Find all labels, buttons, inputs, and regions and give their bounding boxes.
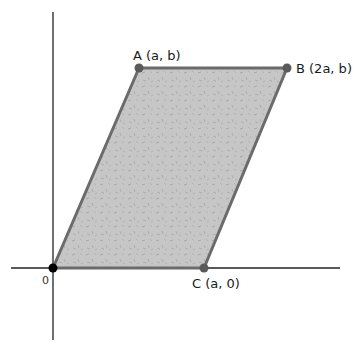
parallelogram-diagram: A (a, b) B (2a, b) C (a, 0) 0	[0, 0, 360, 351]
vertex-b-point	[283, 64, 292, 73]
vertex-c-label: C (a, 0)	[192, 276, 240, 291]
vertex-c-point	[200, 264, 209, 273]
origin-label: 0	[42, 274, 49, 287]
vertex-a-label: A (a, b)	[133, 48, 181, 63]
vertex-b-label: B (2a, b)	[296, 61, 352, 76]
vertex-a-point	[135, 64, 144, 73]
parallelogram-shape	[53, 68, 287, 268]
origin-point	[49, 264, 58, 273]
